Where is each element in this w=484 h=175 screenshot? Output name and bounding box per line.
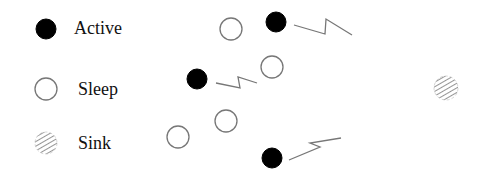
- legend-sleep-icon: [35, 78, 57, 100]
- legend-icons: [35, 19, 57, 154]
- legend-label-sink: Sink: [78, 134, 111, 152]
- legend-label-sleep: Sleep: [78, 80, 118, 98]
- wireless-links: [216, 19, 352, 160]
- sleep-node-icon: [220, 18, 242, 40]
- active-node-icon: [266, 12, 286, 32]
- sleep-node-icon: [261, 56, 283, 78]
- legend-label-active: Active: [74, 19, 122, 37]
- lightning-link-icon: [216, 77, 257, 88]
- lightning-link-icon: [294, 19, 352, 35]
- sensor-network-diagram: Active Sleep Sink: [0, 0, 484, 175]
- sink-node-icon: [434, 76, 458, 100]
- active-node-icon: [187, 69, 207, 89]
- diagram-graphics: [0, 0, 484, 175]
- sleep-node-icon: [215, 110, 237, 132]
- active-node-icon: [262, 148, 282, 168]
- legend-active-icon: [36, 19, 56, 39]
- sleep-node-icon: [167, 126, 189, 148]
- lightning-link-icon: [289, 138, 341, 160]
- legend-sink-icon: [35, 132, 57, 154]
